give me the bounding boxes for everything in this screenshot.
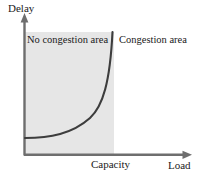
no-congestion-area-label: No congestion area	[27, 35, 108, 46]
x-axis-label: Load	[168, 160, 191, 171]
diagram-canvas	[0, 0, 208, 183]
congestion-area-label: Congestion area	[119, 35, 187, 46]
y-axis-label: Delay	[8, 3, 34, 14]
y-axis-arrowhead	[21, 13, 29, 23]
x-axis-arrowhead	[183, 151, 193, 159]
capacity-marker-label: Capacity	[91, 159, 130, 170]
congestion-load-diagram: Delay Load Capacity No congestion area C…	[0, 0, 208, 183]
